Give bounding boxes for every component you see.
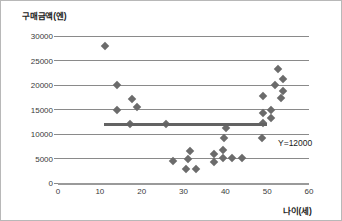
scatter-chart: 구매금액(엔) 050001000015000200002500030000 0… [0, 0, 342, 221]
y-tick-label: 25000 [7, 56, 53, 65]
gridline [58, 134, 309, 135]
y-tick-label: 15000 [7, 105, 53, 114]
y-tick-mark [54, 60, 58, 61]
x-axis-line [58, 183, 309, 185]
data-point [271, 81, 279, 89]
gridline [58, 36, 309, 37]
y-tick-label: 10000 [7, 130, 53, 139]
y-tick-mark [54, 158, 58, 159]
data-point [184, 154, 192, 162]
data-point [210, 158, 218, 166]
data-point [220, 134, 228, 142]
reference-line-label: Y=12000 [278, 138, 312, 148]
data-point [113, 105, 121, 113]
x-tick-label: 40 [221, 187, 230, 196]
x-tick-label: 60 [305, 187, 314, 196]
y-tick-mark [54, 134, 58, 135]
data-point [192, 165, 200, 173]
data-point [101, 42, 109, 50]
data-point [113, 81, 121, 89]
x-tick-label: 50 [263, 187, 272, 196]
data-point [219, 154, 227, 162]
x-tick-label: 0 [56, 187, 60, 196]
y-tick-label: 5000 [7, 154, 53, 163]
data-point [228, 154, 236, 162]
y-tick-mark [54, 36, 58, 37]
data-point [276, 94, 284, 102]
reference-line [104, 123, 267, 126]
data-point [279, 75, 287, 83]
data-point [274, 65, 282, 73]
data-point [237, 154, 245, 162]
y-tick-label: 0 [7, 179, 53, 188]
y-tick-mark [54, 85, 58, 86]
data-point [219, 145, 227, 153]
gridline [58, 60, 309, 61]
x-tick-label: 10 [95, 187, 104, 196]
x-tick-label: 20 [137, 187, 146, 196]
data-point [210, 149, 218, 157]
data-point [258, 134, 266, 142]
data-point [259, 92, 267, 100]
x-tick-label: 30 [179, 187, 188, 196]
x-axis-title: 나이(세) [283, 204, 312, 216]
data-point [182, 165, 190, 173]
y-tick-label: 20000 [7, 81, 53, 90]
plot-area: 050001000015000200002500030000 010203040… [1, 1, 342, 221]
y-tick-mark [54, 183, 58, 184]
y-tick-label: 30000 [7, 32, 53, 41]
data-point [267, 114, 275, 122]
data-point [128, 94, 136, 102]
y-tick-mark [54, 109, 58, 110]
